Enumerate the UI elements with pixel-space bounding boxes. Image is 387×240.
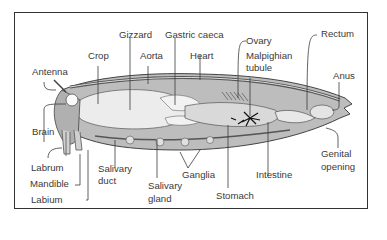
label-heart: Heart bbox=[190, 50, 213, 61]
rectum-organ bbox=[310, 105, 334, 119]
label-crop: Crop bbox=[88, 50, 109, 61]
label-salivary-gland-line1: Salivary bbox=[148, 180, 182, 191]
label-ganglia: Ganglia bbox=[182, 169, 215, 180]
label-rectum: Rectum bbox=[321, 28, 354, 39]
brain-organ bbox=[66, 94, 78, 106]
label-malpighian-tubule-line2: tubule bbox=[246, 62, 272, 73]
label-aorta: Aorta bbox=[140, 50, 163, 61]
label-salivary-gland-line2: gland bbox=[148, 193, 171, 204]
label-anus: Anus bbox=[333, 70, 355, 81]
label-genital-opening-line2: opening bbox=[321, 161, 355, 172]
label-labrum: Labrum bbox=[31, 162, 64, 173]
label-intestine: Intestine bbox=[256, 169, 292, 180]
label-antenna: Antenna bbox=[32, 66, 68, 77]
label-genital-opening-line1: Genital bbox=[321, 148, 351, 159]
label-gastric-caeca: Gastric caeca bbox=[165, 29, 224, 40]
label-gizzard: Gizzard bbox=[119, 29, 152, 40]
label-brain: Brain bbox=[32, 126, 54, 137]
label-mandible: Mandible bbox=[30, 178, 69, 189]
label-ovary: Ovary bbox=[246, 35, 272, 46]
label-stomach: Stomach bbox=[216, 190, 254, 201]
label-malpighian-tubule-line1: Malpighian bbox=[246, 50, 292, 61]
label-salivary-duct-line1: Salivary bbox=[98, 163, 132, 174]
label-labium: Labium bbox=[31, 194, 62, 205]
label-salivary-duct-line2: duct bbox=[98, 175, 116, 186]
